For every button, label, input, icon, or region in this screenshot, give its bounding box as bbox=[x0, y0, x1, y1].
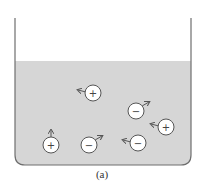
minus-sign-icon: − bbox=[85, 140, 93, 151]
liquid-solution bbox=[15, 61, 191, 165]
plus-sign-icon: + bbox=[89, 88, 97, 99]
plus-sign-icon: + bbox=[47, 140, 55, 151]
plus-sign-icon: + bbox=[162, 122, 170, 133]
minus-sign-icon: − bbox=[132, 106, 140, 117]
beaker-diagram: +−++−− bbox=[0, 0, 204, 183]
minus-sign-icon: − bbox=[134, 138, 142, 149]
figure-caption: (a) bbox=[0, 168, 204, 180]
